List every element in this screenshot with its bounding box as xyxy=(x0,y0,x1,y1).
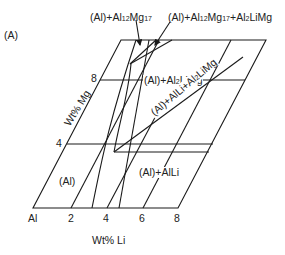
upper-line-steep xyxy=(119,40,149,208)
panel-label: (A) xyxy=(4,30,18,41)
x-tick-4: 4 xyxy=(103,213,109,224)
x-axis-label: Wt% Li xyxy=(92,235,125,246)
region-al-alli: (Al)+AlLi xyxy=(138,167,180,178)
x-tick-6: 6 xyxy=(139,213,145,224)
solvus-curve-2 xyxy=(114,64,131,152)
li-2-line xyxy=(71,40,159,208)
callout-arrow-2 xyxy=(155,22,170,45)
y-tick-4: 4 xyxy=(56,138,62,149)
x-tick-8: 8 xyxy=(174,213,180,224)
callout-arrow-1 xyxy=(136,20,140,45)
callout-al-al12mg17-al2limg: (Al)+Al12Mg17+Al2LiMg xyxy=(168,12,272,23)
x-tick-2: 2 xyxy=(68,213,74,224)
callout-al-al12mg17: (Al)+Al12Mg17 xyxy=(90,12,152,23)
y-tick-8: 8 xyxy=(91,73,97,84)
solvus-curve-1 xyxy=(92,40,136,208)
region-al: (Al) xyxy=(59,176,75,187)
three-phase-diagonal xyxy=(114,57,243,152)
upper-diagonal-2 xyxy=(130,40,172,64)
x-origin-label: Al xyxy=(28,213,37,224)
